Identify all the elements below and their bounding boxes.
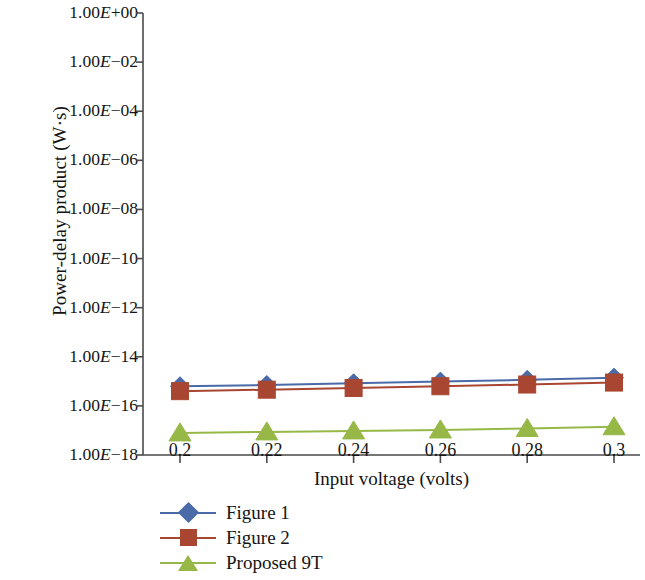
data-series — [171, 368, 624, 396]
data-point-marker — [519, 376, 536, 393]
legend-item[interactable]: Proposed 9T — [160, 550, 460, 575]
chart-figure: Power-delay product (W·s) 1.00E+001.00E−… — [0, 0, 645, 580]
legend-label: Figure 2 — [216, 527, 290, 549]
legend-label: Figure 1 — [216, 502, 290, 524]
legend-marker-diamond-icon — [160, 502, 216, 524]
data-point-marker — [432, 378, 449, 395]
chart-legend: Figure 1Figure 2Proposed 9T — [160, 500, 460, 575]
plot-area — [0, 0, 645, 580]
x-axis-tick-label: 0.24 — [319, 440, 389, 461]
data-point-marker — [345, 379, 362, 396]
data-series-layer — [169, 368, 625, 441]
legend-item[interactable]: Figure 1 — [160, 500, 460, 525]
legend-item[interactable]: Figure 2 — [160, 525, 460, 550]
data-series-line — [180, 427, 614, 433]
x-axis-tick-label: 0.2 — [145, 440, 215, 461]
x-axis-tick-label: 0.3 — [579, 440, 645, 461]
data-point-marker — [606, 374, 623, 391]
y-axis-tick-marks — [136, 13, 143, 455]
data-point-marker — [258, 381, 275, 398]
data-series — [172, 374, 623, 400]
legend-marker-triangle-icon — [160, 552, 216, 574]
data-point-marker — [603, 417, 625, 435]
legend-marker-shape — [178, 555, 198, 571]
legend-marker-shape — [180, 529, 197, 546]
legend-marker-square-icon — [160, 527, 216, 549]
legend-label: Proposed 9T — [216, 552, 323, 574]
data-point-marker — [172, 383, 189, 400]
x-axis-tick-label: 0.28 — [492, 440, 562, 461]
x-axis-tick-label: 0.22 — [232, 440, 302, 461]
x-axis-title: Input voltage (volts) — [143, 468, 640, 490]
x-axis-tick-label: 0.26 — [405, 440, 475, 461]
legend-marker-shape — [177, 502, 198, 523]
data-series — [169, 417, 625, 441]
data-series-line — [180, 383, 614, 392]
